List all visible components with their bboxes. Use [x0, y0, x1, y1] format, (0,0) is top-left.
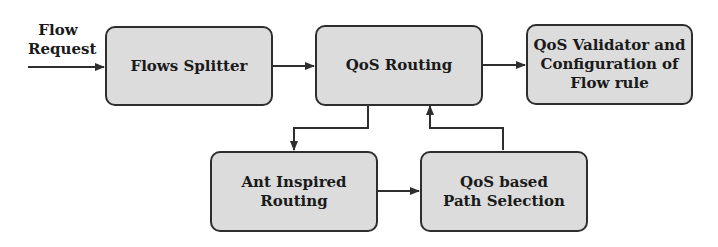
arrow-path-selection-to-routing [430, 106, 503, 150]
node-text: Flow rule [534, 74, 686, 93]
label-line: Request [28, 40, 88, 59]
node-text: Configuration of [534, 55, 686, 74]
node-text: Path Selection [443, 192, 565, 211]
node-text: QoS based [443, 173, 565, 192]
node-text: Ant Inspired [241, 173, 346, 192]
arrow-routing-to-ant [294, 106, 368, 150]
node-qos-routing: QoS Routing [315, 25, 483, 106]
node-flows-splitter: Flows Splitter [105, 26, 273, 106]
node-text: QoS Validator and [534, 36, 686, 55]
node-text: QoS Routing [346, 56, 453, 75]
label-line: Flow [28, 21, 88, 40]
node-qos-validator: QoS Validator and Configuration of Flow … [526, 24, 693, 105]
node-text: Routing [241, 192, 346, 211]
node-ant-inspired-routing: Ant Inspired Routing [210, 151, 378, 232]
flow-request-label: Flow Request [28, 21, 88, 59]
node-qos-path-selection: QoS based Path Selection [420, 151, 588, 232]
node-text: Flows Splitter [131, 57, 248, 76]
